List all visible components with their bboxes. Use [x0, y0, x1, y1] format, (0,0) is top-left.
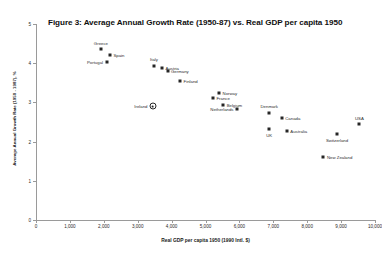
- y-tick-label: 4: [25, 61, 31, 66]
- data-point-label-denmark: Denmark: [261, 104, 278, 109]
- x-tick-mark: [206, 220, 207, 223]
- x-tick-mark: [341, 220, 342, 223]
- data-point-usa[interactable]: [358, 123, 361, 126]
- data-point-ireland[interactable]: [149, 103, 156, 110]
- data-point-austria[interactable]: [161, 66, 164, 69]
- x-tick-label: 5,000: [200, 224, 212, 229]
- data-point-new-zealand[interactable]: [322, 155, 325, 158]
- data-point-label-france: France: [216, 96, 229, 101]
- x-tick-label: 3,000: [132, 224, 144, 229]
- data-point-finland[interactable]: [179, 80, 182, 83]
- data-point-label-portugal: Portugal: [87, 59, 103, 64]
- data-point-france[interactable]: [211, 97, 214, 100]
- data-point-canada[interactable]: [280, 117, 283, 120]
- x-tick-label: 4,000: [166, 224, 178, 229]
- x-tick-mark: [239, 220, 240, 223]
- data-point-label-canada: Canada: [285, 116, 300, 121]
- data-point-denmark[interactable]: [268, 111, 271, 114]
- y-tick-label: 3: [25, 100, 31, 105]
- plot-area: [36, 24, 375, 220]
- x-tick-label: 10,000: [368, 224, 382, 229]
- data-point-label-australia: Australia: [290, 129, 307, 134]
- x-tick-mark: [138, 220, 139, 223]
- data-point-label-usa: USA: [355, 116, 364, 121]
- y-tick-label: 5: [25, 22, 31, 27]
- data-point-spain[interactable]: [108, 53, 111, 56]
- x-tick-label: 6,000: [234, 224, 246, 229]
- data-point-label-netherlands: Netherlands: [210, 106, 233, 111]
- x-tick-mark: [36, 220, 37, 223]
- data-point-italy[interactable]: [152, 64, 155, 67]
- x-tick-mark: [273, 220, 274, 223]
- y-tick-label: 0: [25, 218, 31, 223]
- x-tick-label: 8,000: [301, 224, 313, 229]
- data-point-label-spain: Spain: [113, 52, 124, 57]
- data-point-switzerland[interactable]: [336, 132, 339, 135]
- x-tick-mark: [375, 220, 376, 223]
- data-point-label-finland: Finland: [184, 79, 198, 84]
- data-point-label-uk: UK: [266, 133, 272, 138]
- data-point-label-norway: Norway: [223, 90, 238, 95]
- y-tick-label: 1: [25, 178, 31, 183]
- x-tick-mark: [70, 220, 71, 223]
- x-tick-mark: [307, 220, 308, 223]
- data-point-label-switzerland: Switzerland: [326, 138, 348, 143]
- y-tick-mark: [33, 142, 36, 143]
- x-tick-label: 1,000: [64, 224, 76, 229]
- y-tick-mark: [33, 220, 36, 221]
- data-point-netherlands[interactable]: [236, 107, 239, 110]
- data-point-label-italy: Italy: [150, 57, 158, 62]
- data-point-norway[interactable]: [218, 91, 221, 94]
- y-tick-mark: [33, 24, 36, 25]
- x-tick-mark: [104, 220, 105, 223]
- data-point-label-greece: Greece: [94, 41, 108, 46]
- x-tick-label: 9,000: [335, 224, 347, 229]
- x-tick-label: 7,000: [268, 224, 280, 229]
- y-tick-label: 2: [25, 139, 31, 144]
- y-axis-title: Average Annual Growth Rate (1950 - 1987)…: [12, 59, 17, 179]
- data-point-label-new-zealand: New Zealand: [327, 154, 352, 159]
- data-point-germany[interactable]: [166, 70, 169, 73]
- x-axis-title: Real GDP per capita 1950 (1990 Intl. $): [36, 238, 375, 243]
- data-point-portugal[interactable]: [105, 60, 108, 63]
- x-tick-label: 2,000: [98, 224, 110, 229]
- data-point-australia[interactable]: [285, 130, 288, 133]
- data-point-uk[interactable]: [268, 128, 271, 131]
- y-tick-mark: [33, 102, 36, 103]
- y-tick-mark: [33, 63, 36, 64]
- data-point-label-germany: Germany: [171, 69, 189, 74]
- data-point-label-ireland: Ireland: [134, 104, 147, 109]
- figure-container: Figure 3: Average Annual Growth Rate (19…: [0, 0, 382, 258]
- x-tick-label: 0: [35, 224, 38, 229]
- y-tick-mark: [33, 181, 36, 182]
- x-tick-mark: [172, 220, 173, 223]
- data-point-greece[interactable]: [99, 48, 102, 51]
